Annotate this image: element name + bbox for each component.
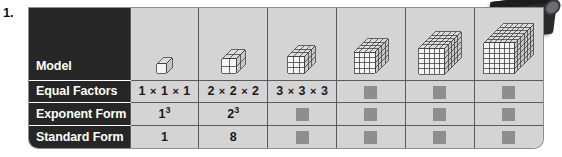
cell-exponent-form-2[interactable]: 23 (199, 103, 268, 126)
cell-model-5 (405, 8, 474, 80)
cell-exponent-form-4[interactable] (336, 103, 405, 126)
cell-model-4 (336, 8, 405, 80)
answer-placeholder-square[interactable] (502, 131, 515, 144)
cell-model-3 (268, 8, 337, 80)
row-label-exponent-form: Exponent Form (29, 103, 130, 126)
cube-model-2-icon (199, 8, 267, 80)
table-row-standard-form: Standard Form 1 8 (29, 125, 543, 148)
row-label-equal-factors: Equal Factors (29, 80, 130, 103)
cell-model-1 (130, 8, 199, 80)
cube-model-6-icon (475, 8, 543, 80)
answer-placeholder-square[interactable] (364, 86, 377, 99)
cube-model-1-icon (131, 8, 199, 80)
cell-equal-factors-3[interactable]: 3 × 3 × 3 (268, 80, 337, 103)
cell-equal-factors-5[interactable] (405, 80, 474, 103)
answer-placeholder-square[interactable] (364, 131, 377, 144)
cell-standard-form-5[interactable] (405, 125, 474, 148)
table: Model (29, 8, 543, 148)
cell-equal-factors-1[interactable]: 1 × 1 × 1 (130, 80, 199, 103)
answer-placeholder-square[interactable] (296, 108, 309, 121)
cell-standard-form-1[interactable]: 1 (130, 125, 199, 148)
cell-model-2 (199, 8, 268, 80)
table-row-exponent-form: Exponent Form 13 23 (29, 103, 543, 126)
artifact-hole-icon (543, 0, 561, 16)
table-row-model: Model (29, 8, 543, 80)
row-label-model: Model (29, 8, 130, 80)
cell-standard-form-2[interactable]: 8 (199, 125, 268, 148)
cube-model-4-icon (337, 8, 405, 80)
answer-placeholder-square[interactable] (433, 108, 446, 121)
cell-model-6 (474, 8, 543, 80)
cell-standard-form-6[interactable] (474, 125, 543, 148)
cell-exponent-form-6[interactable] (474, 103, 543, 126)
answer-placeholder-square[interactable] (502, 86, 515, 99)
cube-model-3-icon (268, 8, 336, 80)
cube-model-5-icon (406, 8, 474, 80)
answer-placeholder-square[interactable] (502, 108, 515, 121)
exponent-table: Model (29, 8, 543, 148)
cell-standard-form-4[interactable] (336, 125, 405, 148)
table-row-equal-factors: Equal Factors 1 × 1 × 1 2 × 2 × 2 3 × 3 … (29, 80, 543, 103)
cell-equal-factors-2[interactable]: 2 × 2 × 2 (199, 80, 268, 103)
cell-exponent-form-5[interactable] (405, 103, 474, 126)
answer-placeholder-square[interactable] (433, 131, 446, 144)
cell-exponent-form-3[interactable] (268, 103, 337, 126)
cell-equal-factors-4[interactable] (336, 80, 405, 103)
exercise-number: 1. (3, 5, 13, 20)
row-label-standard-form: Standard Form (29, 125, 130, 148)
cell-standard-form-3[interactable] (268, 125, 337, 148)
answer-placeholder-square[interactable] (296, 131, 309, 144)
answer-placeholder-square[interactable] (433, 86, 446, 99)
cell-exponent-form-1[interactable]: 13 (130, 103, 199, 126)
cell-equal-factors-6[interactable] (474, 80, 543, 103)
answer-placeholder-square[interactable] (364, 108, 377, 121)
